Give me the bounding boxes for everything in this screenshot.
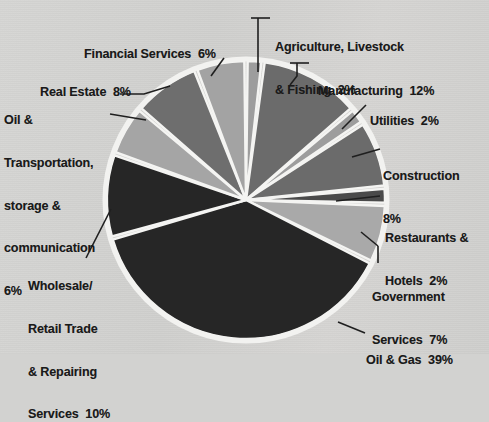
- label-financial-services: Financial Services 6%: [84, 19, 216, 76]
- label-utilities: Utilities 2%: [370, 86, 439, 143]
- label-oil-transportation: Oil & Transportation, storage & communic…: [4, 85, 95, 312]
- label-oilgas: Oil & Gas 39%: [366, 325, 453, 382]
- leader-oilgas: [338, 322, 365, 333]
